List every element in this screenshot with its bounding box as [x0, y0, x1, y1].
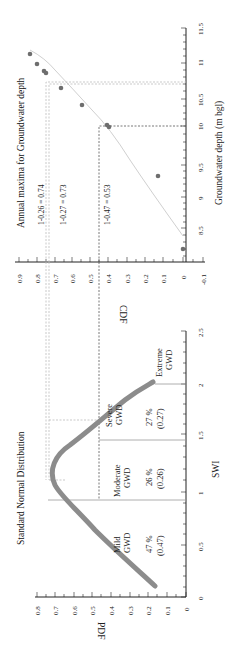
svg-text:0.2: 0.2 — [145, 606, 153, 615]
svg-text:0.8: 0.8 — [34, 606, 42, 615]
svg-text:0.6: 0.6 — [71, 606, 79, 615]
pdf-y-tick-labels: 0.8 0.7 0.6 0.5 0.4 0.3 0.2 0.1 0 — [34, 606, 191, 615]
svg-text:(0.27): (0.27) — [155, 408, 165, 429]
cdf-y-ticks — [19, 257, 203, 262]
cdf-panel-title: Annual maxima for Groundwater depth — [16, 77, 26, 228]
svg-text:Extreme: Extreme — [154, 348, 164, 377]
pdf-x-tick-labels: 0 0.5 1 1.5 2 2.5 — [197, 328, 205, 600]
svg-text:Severe: Severe — [104, 404, 114, 427]
region-severe: Severe GWD 27 % (0.27) — [104, 404, 165, 429]
svg-text:GWD: GWD — [122, 533, 132, 553]
svg-text:0: 0 — [180, 275, 188, 279]
figure: Annual maxima for Groundwater depth 0.9 … — [0, 0, 242, 659]
svg-text:0.7: 0.7 — [52, 274, 60, 283]
svg-text:(0.47): (0.47) — [155, 535, 165, 556]
svg-text:Moderate: Moderate — [112, 464, 122, 497]
svg-text:9: 9 — [197, 196, 205, 200]
svg-text:1.5: 1.5 — [197, 431, 205, 440]
svg-text:0.2: 0.2 — [142, 274, 150, 283]
svg-text:0.4: 0.4 — [105, 274, 113, 283]
cdf-panel: Annual maxima for Groundwater depth 0.9 … — [15, 23, 225, 324]
svg-text:0.5: 0.5 — [197, 542, 205, 551]
pdf-x-axis-title: SWI — [211, 461, 221, 478]
svg-text:-0.1: -0.1 — [200, 273, 208, 285]
pdf-y-ticks — [37, 592, 186, 597]
svg-text:10.5: 10.5 — [197, 93, 205, 106]
cdf-y-axis-title: CDF — [118, 305, 128, 323]
svg-text:0.3: 0.3 — [127, 606, 135, 615]
cdf-x-axis-title: Groundwater depth (m bgl) — [214, 101, 225, 205]
svg-text:0: 0 — [197, 596, 205, 600]
pdf-panel-title: Standard Normal Distribution — [16, 431, 26, 545]
svg-text:27 %: 27 % — [144, 408, 154, 426]
cdf-y-tick-labels: 0.9 0.8 0.7 0.6 0.5 0.4 0.3 0.2 0.1 0 -0… — [16, 273, 208, 285]
svg-text:0.4: 0.4 — [108, 606, 116, 615]
svg-text:0.9: 0.9 — [16, 274, 24, 283]
svg-text:0.6: 0.6 — [69, 274, 77, 283]
svg-text:26 %: 26 % — [144, 468, 154, 486]
svg-text:9.5: 9.5 — [197, 163, 205, 172]
region-mild: Mild GWD 47 % (0.47) — [112, 533, 165, 556]
svg-text:0.5: 0.5 — [89, 606, 97, 615]
svg-text:8.5: 8.5 — [197, 226, 205, 235]
svg-text:0.1: 0.1 — [160, 274, 168, 283]
svg-text:GWD: GWD — [164, 350, 174, 370]
svg-text:0.1: 0.1 — [164, 606, 172, 615]
region-extreme: Extreme GWD — [154, 348, 174, 377]
svg-text:11: 11 — [197, 59, 205, 66]
pdf-y-axis-title: PDF — [96, 622, 106, 639]
svg-text:0.8: 0.8 — [34, 274, 42, 283]
svg-text:2: 2 — [197, 383, 205, 387]
svg-text:0.7: 0.7 — [52, 606, 60, 615]
svg-text:GWD: GWD — [122, 468, 132, 488]
svg-text:1: 1 — [197, 491, 205, 495]
svg-text:11.5: 11.5 — [197, 23, 205, 35]
cdf-annotation-2: 1-0.27 = 0.73 — [59, 184, 68, 225]
svg-text:0: 0 — [183, 607, 191, 611]
svg-text:47 %: 47 % — [144, 535, 154, 553]
svg-text:0.5: 0.5 — [87, 274, 95, 283]
svg-text:0.3: 0.3 — [124, 274, 132, 283]
cdf-annotation-3: 1-0.47 = 0.53 — [103, 184, 112, 225]
cdf-x-ticks — [181, 28, 186, 256]
pdf-x-ticks — [181, 331, 186, 597]
region-moderate: Moderate GWD 26 % (0.26) — [112, 464, 165, 497]
cdf-guide-lines — [46, 82, 186, 262]
svg-text:(0.26): (0.26) — [155, 468, 165, 489]
cdf-x-tick-labels: 11.5 11 10.5 10 9.5 9 8.5 — [197, 23, 205, 235]
svg-text:10: 10 — [197, 123, 205, 131]
cdf-annotation-1: 1-0.26 = 0.74 — [37, 184, 46, 225]
svg-text:Mild: Mild — [112, 536, 122, 553]
svg-text:GWD: GWD — [114, 405, 124, 425]
svg-text:2.5: 2.5 — [197, 328, 205, 337]
